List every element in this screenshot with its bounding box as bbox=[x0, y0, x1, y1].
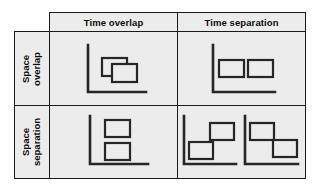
quadrant-space-separation-time-separation bbox=[177, 105, 306, 179]
panel-side-by-side-rectangles bbox=[178, 32, 307, 107]
matrix-diagram: Time overlap Time separation Space overl… bbox=[0, 0, 317, 187]
event-rectangle bbox=[250, 123, 274, 140]
event-rectangle bbox=[105, 120, 130, 137]
row-header-space-overlap-line2: overlap bbox=[31, 52, 42, 86]
event-rectangle bbox=[273, 140, 297, 157]
column-header-time-separation: Time separation bbox=[177, 12, 306, 32]
row-header-space-separation: Space separation bbox=[14, 105, 50, 179]
quadrant-space-overlap-time-separation bbox=[177, 31, 306, 106]
panel-pair-diagonal-rectangles bbox=[178, 106, 307, 180]
column-header-time-overlap-label: Time overlap bbox=[50, 13, 177, 31]
row-header-space-overlap-label: Space overlap bbox=[21, 52, 42, 86]
column-header-time-overlap: Time overlap bbox=[49, 12, 178, 32]
row-header-space-overlap: Space overlap bbox=[14, 31, 50, 106]
row-header-space-overlap-line1: Space bbox=[20, 55, 31, 83]
panel-overlapping-rectangles bbox=[50, 32, 179, 107]
event-rectangle bbox=[219, 60, 244, 77]
event-rectangle bbox=[105, 143, 130, 160]
panel-stacked-rectangles bbox=[50, 106, 179, 180]
event-rectangle bbox=[112, 64, 137, 82]
row-header-space-separation-line1: Space bbox=[20, 128, 31, 156]
event-rectangle bbox=[189, 142, 213, 159]
row-header-space-separation-line2: separation bbox=[31, 118, 42, 166]
row-header-space-separation-label: Space separation bbox=[21, 118, 42, 166]
quadrant-space-separation-time-overlap bbox=[49, 105, 178, 179]
column-header-time-separation-label: Time separation bbox=[178, 13, 305, 31]
event-rectangle bbox=[248, 60, 273, 77]
quadrant-space-overlap-time-overlap bbox=[49, 31, 178, 106]
event-rectangle bbox=[210, 123, 234, 140]
